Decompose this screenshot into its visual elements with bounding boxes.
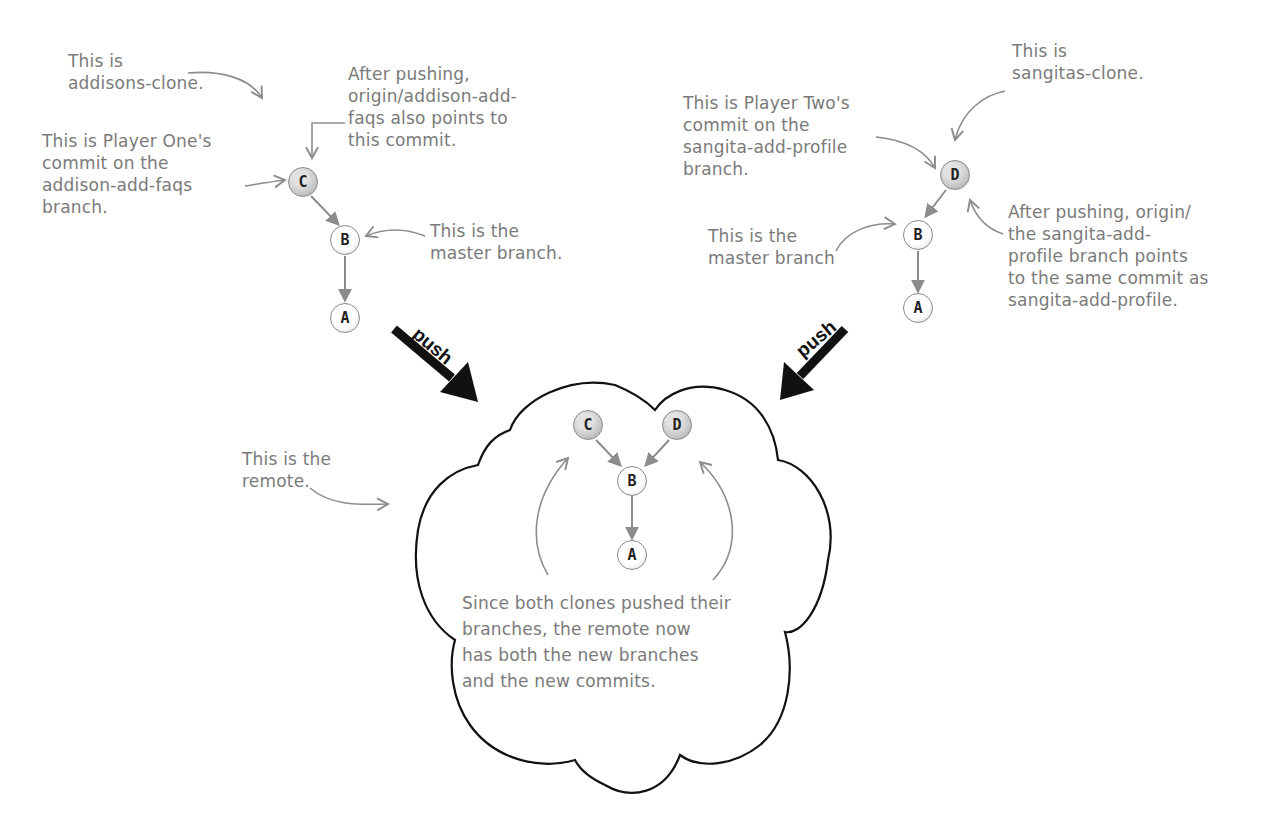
sangita-master-branch-note: This is the master branch — [708, 225, 835, 269]
remote-commit-a[interactable]: A — [617, 540, 647, 570]
remote-commit-c[interactable]: C — [573, 410, 603, 440]
addisons-commit-a[interactable]: A — [330, 303, 360, 333]
sangitas-clone-label: This is sangitas-clone. — [1012, 40, 1144, 84]
origin-sangita-add-profile-note: After pushing, origin/ the sangita-add- … — [1008, 201, 1209, 311]
sangitas-commit-b[interactable]: B — [903, 220, 933, 250]
remote-label: This is the remote. — [242, 448, 331, 492]
addisons-clone-label: This is addisons-clone. — [68, 50, 204, 94]
diagram-canvas — [0, 0, 1275, 823]
addison-master-branch-note: This is the master branch. — [430, 220, 563, 264]
addisons-commit-b[interactable]: B — [330, 225, 360, 255]
remote-summary-note: Since both clones pushed their branches,… — [462, 590, 731, 694]
player-two-commit-note: This is Player Two's commit on the sangi… — [683, 92, 850, 180]
player-one-commit-note: This is Player One's commit on the addis… — [42, 130, 212, 218]
sangitas-commit-a[interactable]: A — [903, 293, 933, 323]
remote-commit-d[interactable]: D — [662, 410, 692, 440]
remote-commit-b[interactable]: B — [617, 466, 647, 496]
sangitas-commit-d[interactable]: D — [940, 160, 970, 190]
remote-cloud — [416, 383, 831, 793]
origin-addison-add-faqs-note: After pushing, origin/addison-add- faqs … — [348, 63, 517, 151]
addisons-commit-c[interactable]: C — [288, 167, 318, 197]
